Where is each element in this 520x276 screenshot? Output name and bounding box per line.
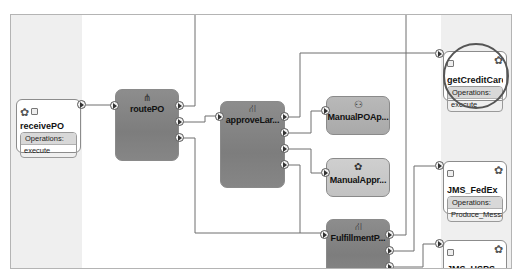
human-task-icon: ⚇ (354, 100, 363, 110)
component-name: routePO (116, 104, 178, 114)
port-routePO-out2[interactable] (175, 117, 184, 126)
port-manualAppr-in[interactable] (321, 168, 330, 177)
highlight-circle (443, 43, 509, 109)
mediator-icon: ⋔ (143, 93, 151, 103)
reference-jms-fedex[interactable]: ✿ JMS_FedEx Operations: Produce_Messa... (443, 161, 507, 214)
operations-panel: Operations: execute (20, 132, 77, 158)
port-fulfillment-out3[interactable] (385, 262, 394, 269)
composite-editor-canvas[interactable]: ✿ receivePO Operations: execute ⋔ routeP… (10, 14, 512, 269)
gear-icon: ✿ (494, 164, 503, 177)
port-fulfillment-in[interactable] (320, 230, 329, 239)
collapse-icon[interactable] (31, 108, 38, 115)
component-name: FulfillmentP... (327, 233, 389, 243)
reference-name: JMS_USPS (447, 264, 503, 269)
component-approveLar[interactable]: ⛙ approveLar... (220, 101, 285, 188)
operations-header: Operations: (21, 133, 76, 145)
wire-routePO-out1 (183, 15, 195, 106)
port-manualPO-in[interactable] (321, 106, 330, 115)
port-fulfillment-out1[interactable] (385, 230, 394, 239)
port-fedex-in[interactable] (435, 161, 444, 170)
service-receivePO[interactable]: ✿ receivePO Operations: execute (16, 99, 81, 153)
port-routePO-out3[interactable] (175, 133, 184, 142)
port-approve-in[interactable] (215, 112, 224, 121)
port-approve-out1[interactable] (280, 112, 289, 121)
operations-panel: Operations: Produce_Messa... (447, 196, 503, 222)
port-receivePO-out[interactable] (77, 100, 86, 109)
reference-jms-usps[interactable]: ✿ JMS_USPS Operations: (443, 240, 507, 269)
port-fulfillment-out2[interactable] (385, 246, 394, 255)
collapse-icon[interactable] (447, 249, 454, 256)
component-fulfillmentP[interactable]: ⛙ FulfillmentP... (326, 219, 390, 269)
component-name: ManualPOAp... (327, 112, 389, 122)
gear-icon: ✿ (354, 162, 362, 172)
operation-item[interactable]: Produce_Messa... (448, 209, 502, 221)
bpel-icon: ⛙ (355, 222, 362, 232)
wire-approve-manualPO (288, 111, 321, 133)
gear-icon: ✿ (494, 243, 503, 256)
collapse-icon[interactable] (447, 170, 454, 177)
gear-icon: ✿ (20, 106, 29, 118)
service-name: receivePO (20, 121, 77, 131)
port-routePO-out1[interactable] (175, 101, 184, 110)
component-routePO[interactable]: ⋔ routePO (115, 89, 179, 161)
port-usps-in[interactable] (435, 239, 444, 248)
wire-routePO-approve (183, 116, 216, 122)
wire-fulfillment-fedex (393, 166, 435, 251)
port-approve-out2[interactable] (280, 128, 289, 137)
component-manualAppr[interactable]: ✿ ManualAppr... (326, 158, 390, 197)
component-manualPOAp[interactable]: ⚇ ManualPOAp... (326, 96, 390, 135)
bpel-icon: ⛙ (249, 104, 256, 114)
port-approve-out4[interactable] (280, 160, 289, 169)
wire-approve-fulfillment (288, 165, 300, 233)
reference-name: JMS_FedEx (447, 185, 503, 195)
port-routePO-in[interactable] (110, 101, 119, 110)
operation-item[interactable]: execute (21, 145, 76, 157)
wire-fulfillment-out1 (393, 15, 406, 235)
operations-header: Operations: (448, 197, 502, 209)
port-approve-out3[interactable] (280, 144, 289, 153)
component-name: approveLar... (221, 115, 284, 125)
wire-approve-manualAppr (288, 149, 321, 173)
component-name: ManualAppr... (327, 175, 389, 185)
port-getCreditCard-in[interactable] (435, 49, 444, 58)
